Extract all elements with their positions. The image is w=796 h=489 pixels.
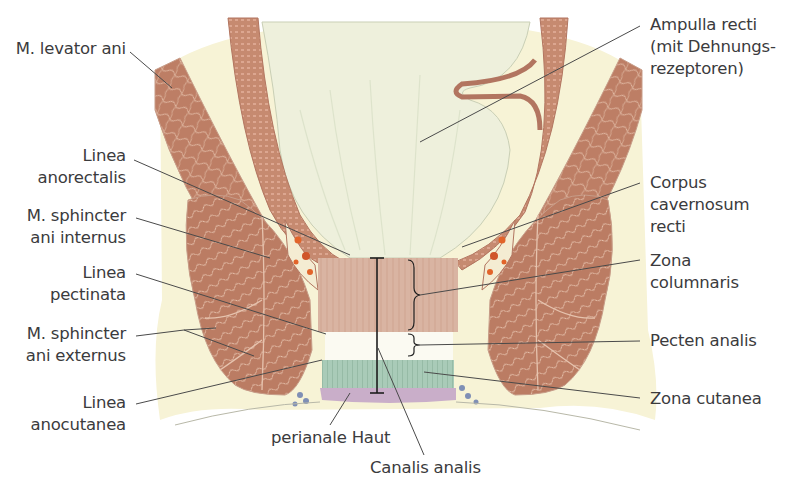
label-corpus-cavernosum: Corpus cavernosum recti <box>650 172 749 238</box>
label-levator-ani: M. levator ani <box>16 38 126 60</box>
label-zona-columnaris: Zona columnaris <box>650 250 739 294</box>
perianal-skin <box>320 388 456 403</box>
label-zona-cutanea: Zona cutanea <box>650 388 762 410</box>
label-perianale-haut: perianale Haut <box>271 427 390 449</box>
label-linea-anocutanea: Linea anocutanea <box>31 392 127 436</box>
label-linea-anorectalis: Linea anorectalis <box>38 145 126 189</box>
zona-columnaris <box>318 258 458 332</box>
label-pecten-analis: Pecten analis <box>650 330 757 352</box>
label-sphincter-internus: M. sphincter ani internus <box>27 205 126 249</box>
zona-cutanea <box>322 360 454 388</box>
label-linea-pectinata: Linea pectinata <box>50 262 126 306</box>
label-ampulla-recti: Ampulla recti (mit Dehnungs- rezeptoren) <box>650 14 776 80</box>
label-sphincter-externus: M. sphincter ani externus <box>26 323 126 367</box>
label-canalis-analis: Canalis analis <box>370 457 481 479</box>
pecten-analis <box>325 332 453 360</box>
